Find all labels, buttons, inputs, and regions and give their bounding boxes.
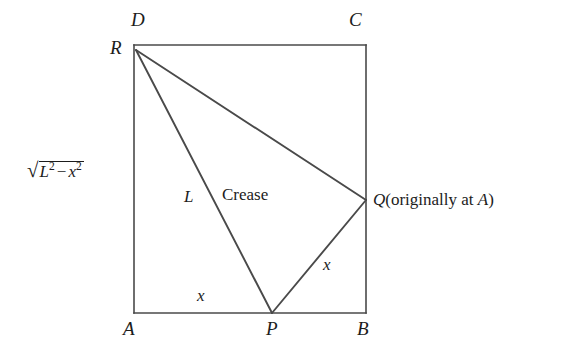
crease-label: Crease <box>222 186 268 203</box>
geometry-figure: D C R A P B Q(originally at A) L Crease … <box>0 0 562 348</box>
radicand: L2−x2 <box>39 161 84 180</box>
vertex-label-R: R <box>110 38 122 57</box>
vertex-label-A: A <box>123 319 135 338</box>
q-note-reference: A <box>478 190 488 209</box>
length-label-sqrt-L2-minus-x2: √ L2−x2 <box>27 161 84 180</box>
vertex-label-P: P <box>266 319 278 338</box>
q-note-close: ) <box>488 190 494 209</box>
segment-RQ <box>136 50 366 200</box>
segment-crease-RP <box>136 50 272 313</box>
radical-sign-icon: √ <box>27 162 39 180</box>
length-label-L: L <box>184 188 193 205</box>
vertex-label-C: C <box>349 10 362 29</box>
diagram-canvas <box>0 0 562 348</box>
radicand-operator: − <box>55 162 69 181</box>
radicand-exp-1: 2 <box>49 160 55 173</box>
q-note-open: (originally at <box>385 190 478 209</box>
vertex-label-B: B <box>357 319 369 338</box>
segment-PQ <box>272 200 366 313</box>
vertex-label-D: D <box>131 10 145 29</box>
radicand-base-x: x <box>68 162 76 181</box>
length-label-x-right: x <box>323 256 331 273</box>
length-label-x-bottom: x <box>197 287 205 304</box>
radicand-exp-2: 2 <box>76 160 82 173</box>
vertex-label-Q-note: Q(originally at A) <box>373 191 494 208</box>
radicand-base-L: L <box>40 162 49 181</box>
vertex-label-Q: Q <box>373 190 385 209</box>
